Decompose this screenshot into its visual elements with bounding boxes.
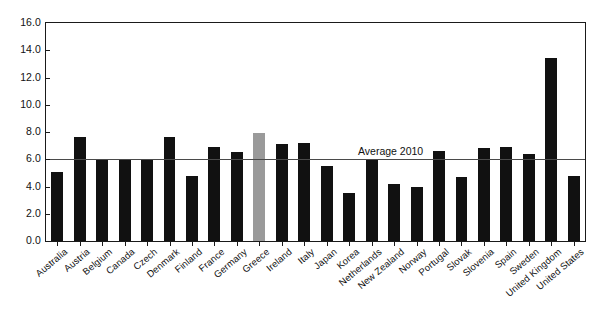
y-tick-label: 2.0 — [0, 207, 41, 219]
y-tick-label: 12.0 — [0, 71, 41, 83]
x-tick-mark — [170, 242, 171, 246]
bar-slot — [545, 23, 557, 241]
bar-chart: 16.014.012.010.08.06.04.02.00.0 Average … — [0, 0, 600, 312]
bar-denmark[interactable] — [164, 137, 176, 241]
bar-greece[interactable] — [253, 133, 265, 241]
bar-germany[interactable] — [231, 152, 243, 241]
bar-czech[interactable] — [141, 159, 153, 241]
average-line-label: Average 2010 — [358, 145, 423, 157]
y-tick-mark — [45, 78, 50, 79]
bar-slot — [478, 23, 490, 241]
y-tick-mark — [45, 132, 50, 133]
bar-slot — [231, 23, 243, 241]
average-line — [46, 159, 585, 160]
bar-slot — [186, 23, 198, 241]
bar-slot — [208, 23, 220, 241]
y-tick-mark — [45, 187, 50, 188]
bar-spain[interactable] — [500, 147, 512, 241]
x-tick-mark — [327, 242, 328, 246]
bar-slot — [321, 23, 333, 241]
bar-new-zealand[interactable] — [388, 184, 400, 241]
x-category-label: Japan — [312, 246, 339, 271]
bar-italy[interactable] — [298, 143, 310, 241]
y-tick-label: 6.0 — [0, 152, 41, 164]
x-tick-mark — [439, 242, 440, 246]
bar-slot — [366, 23, 378, 241]
x-tick-mark — [57, 242, 58, 246]
bar-portugal[interactable] — [433, 151, 445, 241]
bar-austria[interactable] — [74, 137, 86, 241]
bar-slot — [523, 23, 535, 241]
bar-slot — [96, 23, 108, 241]
bar-united-states[interactable] — [568, 176, 580, 241]
bar-slot — [74, 23, 86, 241]
bar-slot — [276, 23, 288, 241]
x-tick-mark — [282, 242, 283, 246]
bar-belgium[interactable] — [96, 159, 108, 241]
bar-slot — [568, 23, 580, 241]
y-tick-mark — [45, 50, 50, 51]
bar-slot — [141, 23, 153, 241]
x-category-label-text: Japan — [312, 246, 339, 271]
bar-slot — [51, 23, 63, 241]
bar-slot — [456, 23, 468, 241]
y-tick-label: 16.0 — [0, 16, 41, 28]
bar-france[interactable] — [208, 147, 220, 241]
x-tick-mark — [237, 242, 238, 246]
y-axis: 16.014.012.010.08.06.04.02.00.0 — [0, 22, 41, 242]
x-tick-mark — [80, 242, 81, 246]
bar-slot — [433, 23, 445, 241]
bar-japan[interactable] — [321, 166, 333, 241]
bar-slot — [500, 23, 512, 241]
x-tick-mark — [304, 242, 305, 246]
bar-slot — [343, 23, 355, 241]
bar-netherlands[interactable] — [366, 159, 378, 241]
y-tick-mark — [45, 105, 50, 106]
bar-norway[interactable] — [411, 187, 423, 242]
bar-canada[interactable] — [119, 159, 131, 241]
x-tick-mark — [551, 242, 552, 246]
bar-korea[interactable] — [343, 193, 355, 241]
x-tick-mark — [394, 242, 395, 246]
y-tick-label: 8.0 — [0, 125, 41, 137]
y-tick-label: 4.0 — [0, 180, 41, 192]
bar-sweden[interactable] — [523, 154, 535, 241]
bar-australia[interactable] — [51, 172, 63, 241]
bar-slot — [298, 23, 310, 241]
x-tick-mark — [372, 242, 373, 246]
bar-finland[interactable] — [186, 176, 198, 241]
bar-slot — [411, 23, 423, 241]
bar-slot — [388, 23, 400, 241]
y-tick-label: 0.0 — [0, 234, 41, 246]
x-tick-mark — [461, 242, 462, 246]
y-tick-label: 14.0 — [0, 43, 41, 55]
x-tick-mark — [192, 242, 193, 246]
bar-slovak[interactable] — [456, 177, 468, 241]
x-tick-mark — [484, 242, 485, 246]
x-tick-mark — [529, 242, 530, 246]
y-tick-mark — [45, 214, 50, 215]
x-tick-mark — [417, 242, 418, 246]
y-tick-mark — [45, 159, 50, 160]
x-tick-mark — [506, 242, 507, 246]
bar-slovenia[interactable] — [478, 148, 490, 241]
x-tick-mark — [125, 242, 126, 246]
x-tick-mark — [147, 242, 148, 246]
y-tick-label: 10.0 — [0, 98, 41, 110]
bar-united-kingdom[interactable] — [545, 58, 557, 241]
bar-slot — [119, 23, 131, 241]
bars-container — [46, 23, 585, 241]
bar-slot — [164, 23, 176, 241]
x-tick-mark — [214, 242, 215, 246]
bar-slot — [253, 23, 265, 241]
x-tick-mark — [102, 242, 103, 246]
x-axis-labels: AustraliaAustriaBelgiumCanadaCzechDenmar… — [0, 246, 600, 312]
x-tick-mark — [574, 242, 575, 246]
x-tick-mark — [349, 242, 350, 246]
x-tick-mark — [259, 242, 260, 246]
